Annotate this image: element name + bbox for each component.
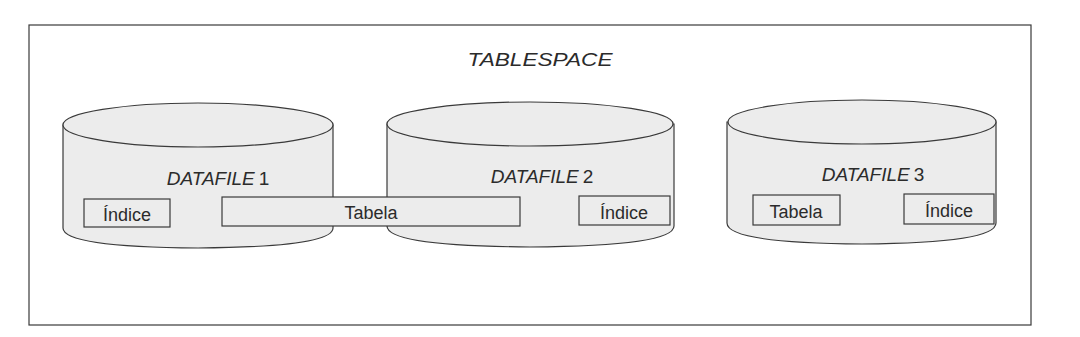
tablespace-diagram: TABLESPACE DATAFILE1 DATAFILE2 DATAFILE3… [0,0,1080,337]
datafile-2-index-segment: Índice [579,196,670,225]
svg-text:Tabela: Tabela [344,203,398,223]
tablespace-title: TABLESPACE [468,49,613,70]
svg-text:Índice: Índice [103,205,151,225]
datafile-2-label: DATAFILE2 [491,166,594,187]
datafile-1-label: DATAFILE1 [167,168,270,189]
svg-text:Índice: Índice [925,201,973,221]
svg-text:Tabela: Tabela [769,202,823,222]
spanning-table-segment: Tabela [222,197,520,226]
datafile-3-index-segment: Índice [904,194,994,224]
datafile-3-table-segment: Tabela [753,195,840,225]
svg-text:Índice: Índice [600,203,648,223]
datafile-1-index-segment: Índice [84,199,170,227]
datafile-3-label: DATAFILE3 [822,164,925,185]
